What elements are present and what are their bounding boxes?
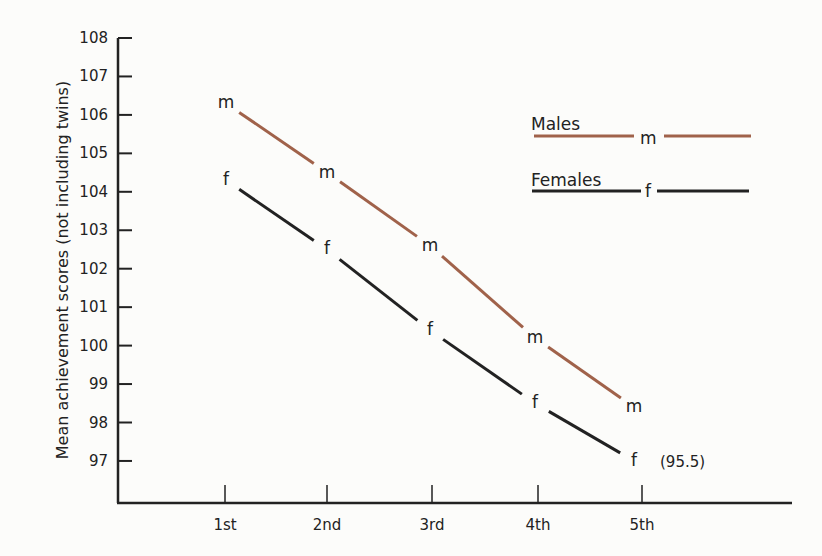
y-axis: 108107106105104103102101100999897: [79, 29, 132, 503]
x-tick-label: 3rd: [420, 516, 445, 534]
legend-label-males: Males: [531, 114, 580, 134]
y-tick-label: 102: [79, 260, 108, 278]
x-tick-label: 5th: [630, 516, 655, 534]
y-tick-label: 103: [79, 221, 108, 239]
y-tick-label: 106: [79, 106, 108, 124]
y-tick-label: 105: [79, 144, 108, 162]
series-segment: [443, 339, 522, 394]
data-point-marker: f: [223, 169, 230, 189]
series-segment: [442, 256, 523, 327]
y-tick-label: 104: [79, 183, 108, 201]
y-tick-label: 108: [79, 29, 108, 47]
y-axis-title: Mean achievement scores (not including t…: [53, 81, 72, 459]
data-point-marker: f: [532, 392, 539, 412]
series-segment: [340, 182, 417, 237]
y-tick-label: 100: [79, 337, 108, 355]
data-point-marker: f: [324, 238, 331, 258]
x-tick-label: 1st: [213, 516, 236, 534]
legend-label-females: Females: [531, 170, 601, 190]
data-point-marker: m: [626, 396, 643, 416]
annotation-95-5: (95.5): [660, 453, 705, 471]
y-tick-label: 97: [89, 452, 108, 470]
y-tick-label: 98: [89, 414, 108, 432]
legend-marker-males: m: [640, 128, 657, 148]
x-tick-label: 2nd: [313, 516, 342, 534]
data-point-marker: m: [527, 327, 544, 347]
data-point-marker: f: [427, 319, 434, 339]
series-segment: [549, 411, 620, 453]
series-segment: [239, 112, 314, 163]
line-chart: 108107106105104103102101100999897 1st2nd…: [0, 0, 822, 556]
y-tick-label: 101: [79, 298, 108, 316]
data-point-marker: m: [218, 92, 235, 112]
data-point-marker: m: [422, 235, 439, 255]
series-group: mmmmmfffff: [218, 92, 643, 470]
series-segment: [340, 259, 418, 320]
legend: Males m Females f: [531, 114, 751, 201]
y-tick-label: 99: [89, 375, 108, 393]
series-segment: [548, 347, 621, 398]
data-point-marker: f: [631, 450, 638, 470]
legend-marker-females: f: [645, 181, 652, 201]
y-tick-label: 107: [79, 67, 108, 85]
series-segment: [239, 189, 314, 240]
data-point-marker: m: [319, 162, 336, 182]
x-axis: 1st2nd3rd4th5th: [117, 485, 792, 534]
x-tick-label: 4th: [526, 516, 551, 534]
